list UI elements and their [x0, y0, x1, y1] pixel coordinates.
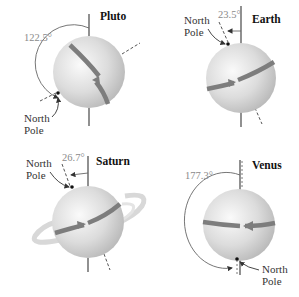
planet-sphere — [53, 36, 125, 108]
panel-saturn: Saturn 26.7° North Pole — [26, 152, 144, 272]
planet-name: Earth — [252, 13, 281, 25]
north-pole-label-line2: Pole — [24, 124, 44, 136]
planet-name: Saturn — [96, 155, 130, 167]
north-pole-label-line2: Pole — [262, 275, 282, 287]
tilt-angle-label: 177.3° — [185, 170, 213, 181]
north-pole-label: North — [262, 263, 288, 275]
north-pole-label-line2: Pole — [184, 26, 204, 38]
tilted-axis-top — [62, 164, 70, 186]
north-pole-dot — [70, 185, 74, 189]
tilt-angle-label: 122.5° — [24, 32, 52, 43]
axial-tilt-diagram: Pluto 122.5° North Pole Earth 23.5° Nort… — [0, 0, 299, 297]
panel-pluto: Pluto 122.5° North Pole — [24, 10, 140, 136]
tilted-axis-bottom — [255, 108, 262, 124]
tilt-arc — [71, 173, 88, 175]
north-pole-label: North — [24, 112, 50, 124]
north-pole-pointer — [240, 262, 259, 270]
tilt-angle-label: 23.5° — [218, 9, 241, 20]
planet-name: Pluto — [100, 10, 126, 22]
north-pole-dot — [235, 257, 239, 261]
north-pole-dot — [56, 91, 60, 95]
north-pole-label-line2: Pole — [26, 169, 46, 181]
tilted-axis-top — [122, 43, 140, 54]
north-pole-pointer — [52, 98, 58, 117]
tilt-angle-label: 26.7° — [62, 152, 85, 163]
north-pole-dot — [226, 42, 230, 46]
tilted-axis-bottom — [104, 254, 110, 270]
tilted-axis-top — [219, 22, 228, 42]
panel-earth: Earth 23.5° North Pole — [184, 6, 281, 127]
north-pole-label: North — [184, 14, 210, 26]
panel-venus: Venus 177.3° North Pole — [184, 159, 288, 287]
planet-name: Venus — [252, 159, 282, 171]
north-pole-label: North — [26, 157, 52, 169]
north-pole-pointer — [208, 29, 225, 44]
